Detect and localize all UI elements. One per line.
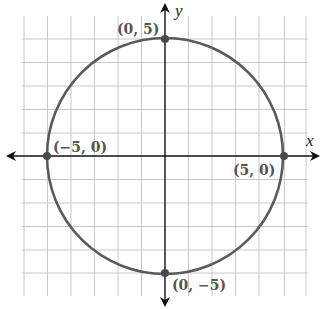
point-right	[280, 152, 288, 160]
point-top	[161, 35, 169, 43]
x-axis-label: x	[305, 131, 314, 150]
point-left	[43, 152, 51, 160]
label-top: (0, 5)	[117, 21, 159, 37]
label-right: (5, 0)	[233, 162, 275, 178]
point-bottom	[161, 269, 169, 277]
label-left: (−5, 0)	[53, 139, 107, 155]
y-axis-label: y	[173, 1, 183, 20]
coordinate-plane: y x (0, 5) (−5, 0) (5, 0) (0, −5)	[0, 0, 323, 309]
label-bottom: (0, −5)	[172, 277, 226, 293]
